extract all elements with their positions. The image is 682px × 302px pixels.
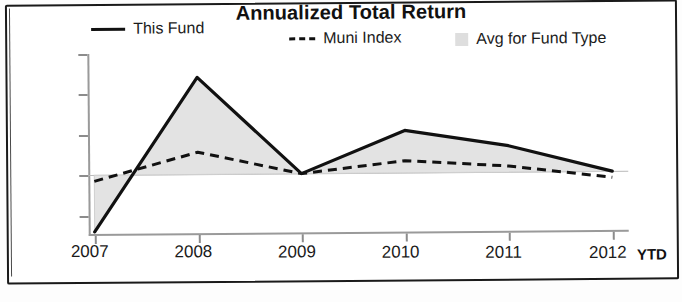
ytd-label: YTD: [637, 245, 667, 262]
series-canvas: [87, 50, 628, 236]
x-tick-label: 2007: [71, 242, 109, 262]
x-tick: [613, 232, 615, 240]
y-tick: [80, 216, 89, 218]
legend-label-muni-index: Muni Index: [323, 29, 401, 48]
plot-area: 60%40%20%0%-20% 200720082009201020112012…: [87, 50, 628, 236]
y-tick: [79, 175, 88, 177]
x-tick-label: 2010: [382, 242, 420, 262]
legend-label-avg-for-fund-type: Avg for Fund Type: [476, 29, 606, 48]
x-tick-label: 2011: [485, 242, 522, 262]
y-tick: [79, 135, 88, 137]
legend-label-this-fund: This Fund: [133, 19, 204, 38]
legend-item-muni-index: Muni Index: [289, 29, 401, 48]
y-tick: [78, 54, 87, 56]
y-tick: [79, 94, 88, 96]
gray-box-swatch-icon: [455, 32, 468, 45]
solid-line-swatch-icon: [91, 27, 125, 30]
x-tick-label: 2008: [174, 242, 212, 262]
chart-stage: Annualized Total Return This Fund Muni I…: [0, 0, 682, 302]
chart-screenshot: Annualized Total Return This Fund Muni I…: [0, 0, 682, 302]
chart-title: Annualized Total Return: [211, 0, 491, 25]
x-tick: [406, 233, 408, 241]
legend-item-avg-for-fund-type: Avg for Fund Type: [455, 29, 606, 48]
x-tick-label: 2012: [589, 242, 627, 262]
x-tick-label: 2009: [278, 242, 316, 262]
legend-item-this-fund: This Fund: [91, 19, 204, 38]
dashed-line-swatch-icon: [289, 37, 315, 40]
x-tick: [509, 233, 511, 241]
